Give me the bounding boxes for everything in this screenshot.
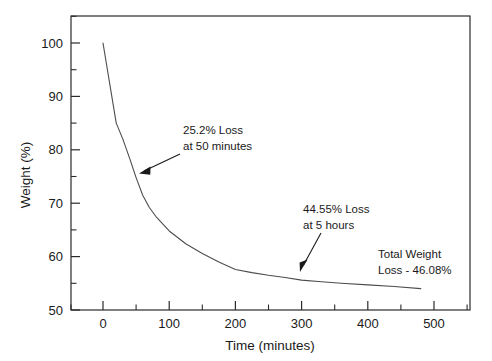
chart-background [0,0,492,361]
y-tick-label-70: 70 [49,196,63,211]
x-tick-label-300: 300 [291,316,313,331]
y-tick-label-100: 100 [41,36,63,51]
annotation-25-percent-line1: 25.2% Loss [183,124,243,136]
x-axis-title: Time (minutes) [225,338,315,353]
annotation-44-percent-line2: at 5 hours [303,219,354,231]
y-tick-label-90: 90 [49,89,63,104]
y-tick-label-50: 50 [49,303,63,318]
weight-loss-line-chart: 100 90 80 70 60 50 0 100 200 300 400 [0,0,492,361]
annotation-25-percent-line2: at 50 minutes [183,140,252,152]
x-tick-label-100: 100 [158,316,180,331]
y-tick-label-80: 80 [49,142,63,157]
chart-figure: 100 90 80 70 60 50 0 100 200 300 400 [0,0,492,361]
x-tick-label-0: 0 [99,316,106,331]
annotation-44-percent-line1: 44.55% Loss [303,203,370,215]
x-tick-label-500: 500 [423,316,445,331]
x-tick-label-200: 200 [225,316,247,331]
y-axis-title: Weight (%) [18,142,33,209]
y-tick-label-60: 60 [49,249,63,264]
x-tick-label-400: 400 [357,316,379,331]
annotation-total-loss-line1: Total Weight [378,248,442,260]
annotation-total-loss-line2: Loss - 46.08% [378,264,452,276]
